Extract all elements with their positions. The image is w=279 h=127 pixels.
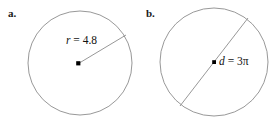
diameter-measure-label-b: d = 3π <box>219 56 249 68</box>
diameter-equals-b: = <box>225 55 237 67</box>
radius-measure-label-a: r = 4.8 <box>66 35 97 47</box>
radius-value-a: 4.8 <box>83 34 97 46</box>
center-dot-a <box>76 61 80 65</box>
part-label-b: b. <box>146 8 155 19</box>
center-dot-b <box>212 60 216 64</box>
part-label-a: a. <box>8 8 16 19</box>
geometry-figure: a. b. r = 4.8 d = 3π <box>0 0 279 127</box>
radius-equals-a: = <box>70 34 82 46</box>
diameter-value-b: 3π <box>237 55 249 67</box>
